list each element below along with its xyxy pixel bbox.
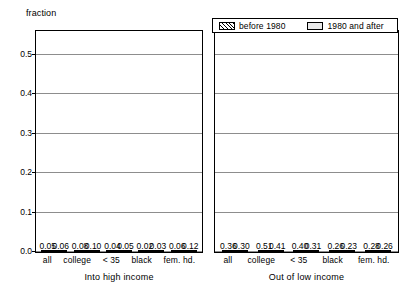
legend-entry-1980-and-after: 1980 and after — [307, 21, 383, 31]
plot-area-right: 0.360.300.510.410.400.310.260.230.280.26 — [214, 30, 399, 253]
bar-value-label: 0.06 — [52, 242, 69, 251]
bar-1980-and-after: 0.12 — [184, 250, 197, 252]
legend-swatch-plain-icon — [307, 22, 323, 30]
chart-legend: before 1980 1980 and after — [212, 18, 398, 33]
plot-area-left: 0.00.10.20.30.40.5 0.050.060.080.100.040… — [35, 30, 203, 253]
bar-pair: 0.050.06 — [41, 250, 67, 252]
bar-value-label: 0.12 — [182, 242, 199, 251]
bar-value-label: 0.05 — [117, 242, 134, 251]
bar-chart-figure: fraction before 1980 1980 and after 0.00… — [0, 0, 414, 296]
bar-pair: 0.060.12 — [171, 250, 197, 252]
x-tick-label-college: college — [63, 255, 91, 265]
bar-group-college: 0.510.41 — [258, 31, 284, 252]
bar-pair: 0.260.23 — [329, 250, 355, 252]
y-tick-label-0.4: 0.4 — [20, 88, 32, 98]
bar-1980-and-after: 0.31 — [306, 250, 319, 252]
panel-out-of-low-income: 0.360.300.510.410.400.310.260.230.280.26 — [214, 30, 399, 253]
bar-pair: 0.400.31 — [293, 250, 319, 252]
legend-label-before-1980: before 1980 — [239, 21, 285, 31]
bar-pair: 0.360.30 — [222, 250, 248, 252]
panel-into-high-income: 0.00.10.20.30.40.5 0.050.060.080.100.040… — [35, 30, 203, 253]
x-tick-label--35: < 35 — [103, 255, 120, 265]
x-tick-label-all: all — [224, 255, 233, 265]
bar-value-label: 0.10 — [85, 242, 102, 251]
x-tick-label-black: black — [132, 255, 152, 265]
x-tick-label-fem-hd-: fem. hd. — [164, 255, 196, 265]
bar-group-black: 0.020.03 — [138, 31, 164, 252]
bar-1980-and-after: 0.10 — [87, 250, 100, 252]
x-tick-label--35: < 35 — [290, 255, 307, 265]
bar-pair: 0.510.41 — [258, 250, 284, 252]
bar-group-black: 0.260.23 — [329, 31, 355, 252]
bar-pair: 0.080.10 — [74, 250, 100, 252]
legend-entry-before-1980: before 1980 — [219, 21, 285, 31]
bar-value-label: 0.26 — [376, 242, 393, 251]
bar-1980-and-after: 0.30 — [235, 250, 248, 252]
bar-group--35: 0.040.05 — [106, 31, 132, 252]
x-tick-label-college: college — [247, 255, 275, 265]
bar-1980-and-after: 0.05 — [119, 250, 132, 252]
bar-group--35: 0.400.31 — [293, 31, 319, 252]
legend-swatch-hatched-icon — [219, 22, 235, 30]
bar-1980-and-after: 0.23 — [342, 250, 355, 252]
bar-group-fem-hd-: 0.280.26 — [365, 31, 391, 252]
bar-groups-right: 0.360.300.510.410.400.310.260.230.280.26 — [215, 31, 398, 252]
bar-1980-and-after: 0.26 — [378, 250, 391, 252]
y-tick-label-0.5: 0.5 — [20, 49, 32, 59]
category-labels-left: allcollege< 35blackfem. hd. — [35, 255, 203, 269]
y-tick-label-0.0: 0.0 — [20, 246, 32, 256]
bar-value-label: 0.03 — [150, 242, 167, 251]
panel-title-right: Out of low income — [214, 272, 399, 282]
bar-1980-and-after: 0.03 — [151, 250, 164, 252]
y-tick-label-0.2: 0.2 — [20, 167, 32, 177]
panel-title-left: Into high income — [35, 272, 203, 282]
bar-group-college: 0.080.10 — [74, 31, 100, 252]
bar-1980-and-after: 0.06 — [54, 250, 67, 252]
bar-groups-left: 0.050.060.080.100.040.050.020.030.060.12 — [36, 31, 202, 252]
bar-group-all: 0.360.30 — [222, 31, 248, 252]
bar-group-all: 0.050.06 — [41, 31, 67, 252]
category-labels-right: allcollege< 35blackfem. hd. — [214, 255, 399, 269]
bar-pair: 0.020.03 — [138, 250, 164, 252]
y-tick-label-0.3: 0.3 — [20, 128, 32, 138]
bar-pair: 0.280.26 — [365, 250, 391, 252]
x-tick-label-black: black — [322, 255, 342, 265]
bar-value-label: 0.41 — [269, 242, 286, 251]
bar-value-label: 0.23 — [341, 242, 358, 251]
x-tick-label-fem-hd-: fem. hd. — [358, 255, 390, 265]
bar-value-label: 0.31 — [305, 242, 322, 251]
legend-label-1980-and-after: 1980 and after — [327, 21, 383, 31]
y-axis-label: fraction — [26, 8, 56, 18]
bar-pair: 0.040.05 — [106, 250, 132, 252]
bar-group-fem-hd-: 0.060.12 — [171, 31, 197, 252]
x-tick-label-all: all — [43, 255, 52, 265]
bar-value-label: 0.30 — [233, 242, 250, 251]
bar-1980-and-after: 0.41 — [271, 250, 284, 252]
y-tick-label-0.1: 0.1 — [20, 207, 32, 217]
